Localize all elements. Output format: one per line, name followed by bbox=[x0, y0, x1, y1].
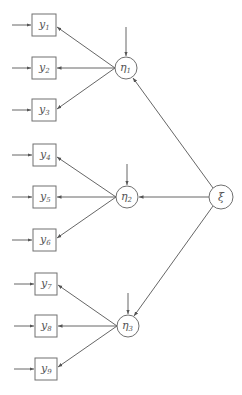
loading-eta3-y7 bbox=[58, 285, 117, 326]
indicator-y1[interactable]: y1 bbox=[32, 14, 56, 36]
indicator-y7[interactable]: y7 bbox=[35, 273, 57, 295]
latent-eta2[interactable]: η2 bbox=[116, 186, 138, 208]
loading-eta2-y6 bbox=[57, 197, 116, 238]
loading-eta1-y3 bbox=[57, 68, 115, 109]
path-xi-eta3 bbox=[134, 206, 213, 316]
indicator-y2[interactable]: y2 bbox=[32, 57, 56, 79]
loading-eta3-y9 bbox=[58, 326, 117, 367]
indicator-y4[interactable]: y4 bbox=[33, 144, 56, 166]
sem-path-diagram: y1 y2 y3 y4 y5 y6 y7 y8 bbox=[0, 0, 242, 395]
loading-eta2-y4 bbox=[57, 157, 116, 197]
indicator-y3[interactable]: y3 bbox=[32, 99, 56, 121]
latent-eta1[interactable]: η1 bbox=[115, 57, 137, 79]
latent-eta3[interactable]: η3 bbox=[117, 315, 139, 337]
indicator-y8[interactable]: y8 bbox=[35, 315, 57, 337]
factor-loadings bbox=[57, 27, 117, 367]
indicator-y5[interactable]: y5 bbox=[33, 186, 56, 208]
structural-paths bbox=[133, 78, 213, 316]
indicator-y6[interactable]: y6 bbox=[33, 229, 56, 251]
path-xi-eta1 bbox=[133, 78, 213, 188]
exogenous-xi[interactable]: ξ bbox=[209, 185, 233, 209]
loading-eta1-y1 bbox=[57, 27, 115, 68]
observed-indicators: y1 y2 y3 y4 y5 y6 y7 y8 bbox=[32, 14, 57, 380]
svg-text:ξ: ξ bbox=[218, 191, 225, 204]
indicator-y9[interactable]: y9 bbox=[35, 358, 57, 380]
error-arrows bbox=[12, 25, 34, 369]
